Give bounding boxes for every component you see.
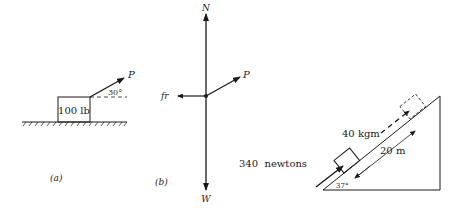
figure-c-incline: 40 kgm 340 newtons 20 m 37° — [239, 94, 440, 190]
mass-label: 40 kgm — [342, 128, 380, 139]
figure-a: 100 lb P 30° (a) — [22, 69, 135, 183]
force-p-label: P — [127, 69, 135, 80]
origin-point — [204, 94, 208, 98]
applied-force-label: 340 newtons — [239, 158, 307, 169]
distance-label: 20 m — [380, 145, 406, 156]
weight-label: W — [201, 194, 211, 204]
incline-angle-label: 37° — [336, 182, 348, 190]
ground-hatching — [23, 122, 127, 126]
force-p-arrow — [206, 77, 240, 96]
caption-b: (b) — [155, 177, 168, 187]
distance-dimension-arrow-start — [355, 166, 370, 178]
physics-diagram: 100 lb P 30° (a) N W fr P (b) 40 kgm 340 — [0, 0, 457, 210]
caption-a: (a) — [50, 173, 63, 183]
figure-b-free-body: N W fr P (b) — [155, 3, 250, 204]
friction-label: fr — [160, 91, 169, 101]
normal-label: N — [201, 3, 211, 13]
incline-triangle — [323, 96, 440, 190]
block-weight-label: 100 lb — [58, 105, 90, 116]
angle-label: 30° — [108, 88, 122, 97]
force-p-label: P — [242, 69, 250, 80]
path-dashed-line — [381, 111, 409, 133]
